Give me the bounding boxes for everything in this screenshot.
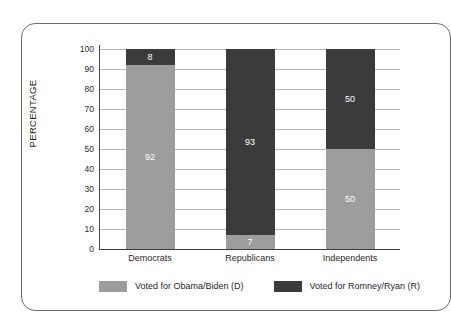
y-axis-tick-labels: 1009080706050403020100 [66,49,94,249]
y-axis-tick: 20 [68,205,94,214]
legend-swatch [274,281,302,292]
bar-group[interactable]: 793 [226,49,275,249]
bar-segment[interactable]: 93 [226,49,275,235]
bar-value-label: 92 [145,153,155,162]
bar-value-label: 50 [345,95,355,104]
y-axis-tick: 100 [68,45,94,54]
bar-value-label: 7 [247,238,252,247]
bar-group[interactable]: 928 [126,49,175,249]
bar-segment[interactable]: 92 [126,65,175,249]
y-axis-tick: 60 [68,125,94,134]
legend-swatch [99,281,127,292]
legend-item[interactable]: Voted for Obama/Biden (D) [99,281,244,292]
legend-label: Voted for Romney/Ryan (R) [310,282,421,291]
bar-segment[interactable]: 8 [126,49,175,65]
bar-segment[interactable]: 50 [326,49,375,149]
bar-segment[interactable]: 7 [226,235,275,249]
legend-label: Voted for Obama/Biden (D) [135,282,244,291]
x-axis-baseline [100,249,400,250]
legend-item[interactable]: Voted for Romney/Ryan (R) [274,281,421,292]
y-axis-tick: 70 [68,105,94,114]
bar-group[interactable]: 5050 [326,49,375,249]
bar-value-label: 8 [147,53,152,62]
y-axis-tick: 10 [68,225,94,234]
y-axis-tick: 80 [68,85,94,94]
y-axis-tick: 40 [68,165,94,174]
y-axis-label: PERCENTAGE [27,54,38,174]
chart-legend: Voted for Obama/Biden (D)Voted for Romne… [99,279,420,293]
plot-area: 9287935050 [100,49,400,249]
y-axis-tick: 90 [68,65,94,74]
bar-value-label: 93 [245,138,255,147]
x-axis-tick-independents: Independents [290,254,410,263]
y-axis-tick: 50 [68,145,94,154]
y-axis-tick: 0 [68,245,94,254]
bar-value-label: 50 [345,195,355,204]
y-axis-tick: 30 [68,185,94,194]
bar-segment[interactable]: 50 [326,149,375,249]
